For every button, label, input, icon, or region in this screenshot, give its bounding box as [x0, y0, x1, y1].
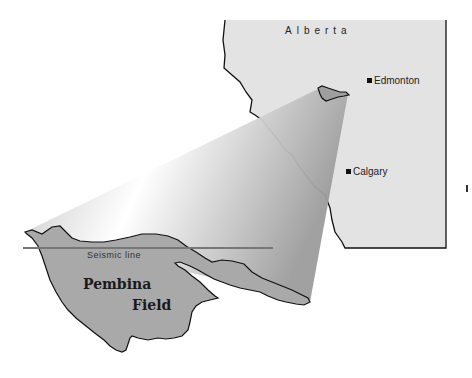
city-name: Calgary	[353, 166, 387, 177]
field-label-line2: Field	[132, 297, 171, 313]
city-name: Edmonton	[374, 75, 420, 86]
city-marker-icon	[346, 169, 351, 174]
province-label: Alberta	[285, 25, 352, 36]
city-marker-icon	[367, 78, 372, 83]
city-edmonton: Edmonton	[367, 75, 420, 86]
seismic-line-label: Seismic line	[87, 250, 141, 260]
map-graphic	[0, 0, 472, 378]
city-calgary: Calgary	[346, 166, 387, 177]
edge-mark	[466, 185, 468, 192]
pembina-location-map: Alberta Edmonton Calgary Seismic line Pe…	[0, 0, 472, 378]
field-label-line1: Pembina	[83, 276, 151, 292]
